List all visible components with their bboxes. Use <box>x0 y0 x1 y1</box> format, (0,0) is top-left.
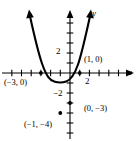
y-axis-label: y <box>92 9 96 18</box>
point-vertex <box>58 111 62 115</box>
annotation-y-intercept: (0, −3) <box>84 104 107 113</box>
point-y-intercept <box>68 101 72 105</box>
point-x-intercept-left <box>39 71 43 75</box>
x-axis-label: x <box>128 68 132 77</box>
annotation-x-intercept-right: (1, 0) <box>84 55 102 64</box>
x-tick-label-2: 2 <box>85 77 90 86</box>
annotation-x-intercept-left: (−3, 0) <box>4 78 27 87</box>
graph-figure: y x 2 −2 2 (−3, 0) (1, 0) (0, −3) (−1, −… <box>0 0 140 141</box>
x-axis <box>2 70 134 77</box>
curve-arrow-left <box>26 10 34 19</box>
y-tick-label-neg2: −2 <box>53 89 63 98</box>
point-x-intercept-right <box>78 71 82 75</box>
annotation-vertex: (−1, −4) <box>24 120 52 129</box>
y-tick-label-2: 2 <box>56 47 61 56</box>
coordinate-plane-svg <box>0 0 140 141</box>
